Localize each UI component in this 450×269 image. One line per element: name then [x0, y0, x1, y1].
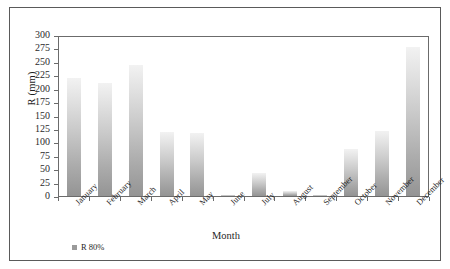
y-tick-label: 0: [45, 190, 50, 201]
chart-legend: R 80%: [72, 242, 104, 252]
y-tick-label: 50: [40, 163, 50, 174]
bar-slot: [274, 37, 305, 196]
bar: [160, 132, 174, 196]
y-tick-label: 100: [35, 136, 50, 147]
y-tick-label: 250: [35, 56, 50, 67]
y-tick-label: 125: [35, 123, 50, 134]
bar-series: [59, 37, 428, 196]
y-tick-label: 175: [35, 96, 50, 107]
legend-swatch-icon: [72, 245, 77, 250]
y-tick-label: 300: [35, 29, 50, 40]
y-tick-label: 225: [35, 69, 50, 80]
bar: [129, 65, 143, 196]
y-tick-label: 200: [35, 83, 50, 94]
bar-slot: [182, 37, 213, 196]
bar-slot: [90, 37, 121, 196]
bar: [98, 83, 112, 196]
chart-frame: R (mm) 025507510012515017520022525027530…: [9, 7, 441, 261]
bar-slot: [121, 37, 152, 196]
legend-label: R 80%: [81, 242, 104, 252]
plot-area: [58, 36, 429, 197]
bar-slot: [305, 37, 336, 196]
chart-figure: R (mm) 025507510012515017520022525027530…: [0, 0, 450, 269]
bar: [190, 133, 204, 196]
bar-slot: [367, 37, 398, 196]
y-axis-ticks: 0255075100125150175200225250275300: [10, 36, 58, 197]
y-tick-label: 275: [35, 42, 50, 53]
y-tick-label: 25: [40, 177, 50, 188]
bar-slot: [151, 37, 182, 196]
bar-slot: [336, 37, 367, 196]
y-tick-label: 150: [35, 110, 50, 121]
bar: [67, 78, 81, 196]
bar-slot: [59, 37, 90, 196]
bar-slot: [244, 37, 275, 196]
bar-slot: [397, 37, 428, 196]
y-tick-label: 75: [40, 150, 50, 161]
x-axis-title: Month: [10, 230, 442, 241]
bar-slot: [213, 37, 244, 196]
bar: [252, 173, 266, 196]
